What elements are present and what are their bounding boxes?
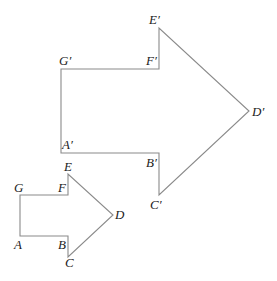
label-d: D [114, 207, 125, 222]
small-arrow-polygon [20, 174, 113, 257]
label-e: E [63, 159, 72, 174]
label-c: C [65, 255, 74, 270]
label-g: G [14, 180, 24, 195]
label-c-prime: C′ [150, 197, 162, 212]
label-g-prime: G′ [59, 53, 71, 68]
dilation-diagram: G′ F′ E′ D′ A′ B′ C′ G F E D A B C [0, 0, 277, 281]
label-b-prime: B′ [146, 155, 157, 170]
label-e-prime: E′ [148, 12, 160, 27]
label-f-prime: F′ [145, 53, 157, 68]
label-f: F [57, 180, 67, 195]
label-b: B [58, 237, 66, 252]
label-a-prime: A′ [61, 137, 73, 152]
label-a: A [13, 237, 22, 252]
label-d-prime: D′ [251, 104, 264, 119]
